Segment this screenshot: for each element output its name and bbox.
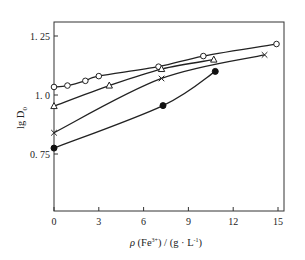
filled-circle-marker [160,103,166,109]
x-axis-label: ρ (Fe3+) / (g · L-1) [129,237,203,249]
circle-marker [96,73,102,79]
y-tick-label: 0. 75 [30,149,50,160]
y-axis-label: lg D0 [15,107,29,129]
x-tick-label: 0 [52,216,57,227]
y-tick-label: 1. 25 [30,31,50,42]
x-tick-label: 12 [228,216,238,227]
series-filled-circle [51,68,218,151]
circle-marker [51,84,57,90]
y-tick-label: 1. 0 [35,90,50,101]
circle-marker [201,53,207,59]
filled-circle-marker [212,68,218,74]
x-tick-label: 3 [96,216,101,227]
chart: 036912150. 751. 01. 25 ρ (Fe3+) / (g · L… [0,0,305,260]
plot-border [54,22,284,211]
axes: 036912150. 751. 01. 25 [30,31,283,228]
circle-marker [65,83,71,89]
circle-marker [274,41,280,47]
series-open-triangle [51,56,217,108]
x-tick-label: 9 [186,216,191,227]
plot-frame [54,22,284,211]
filled-circle-marker [51,145,57,151]
x-tick-label: 15 [273,216,283,227]
data-series [51,41,280,151]
circle-marker [83,78,89,84]
triangle-marker [211,56,217,62]
cross-marker [159,76,165,82]
x-tick-label: 6 [141,216,146,227]
series-open-circle [51,41,279,90]
